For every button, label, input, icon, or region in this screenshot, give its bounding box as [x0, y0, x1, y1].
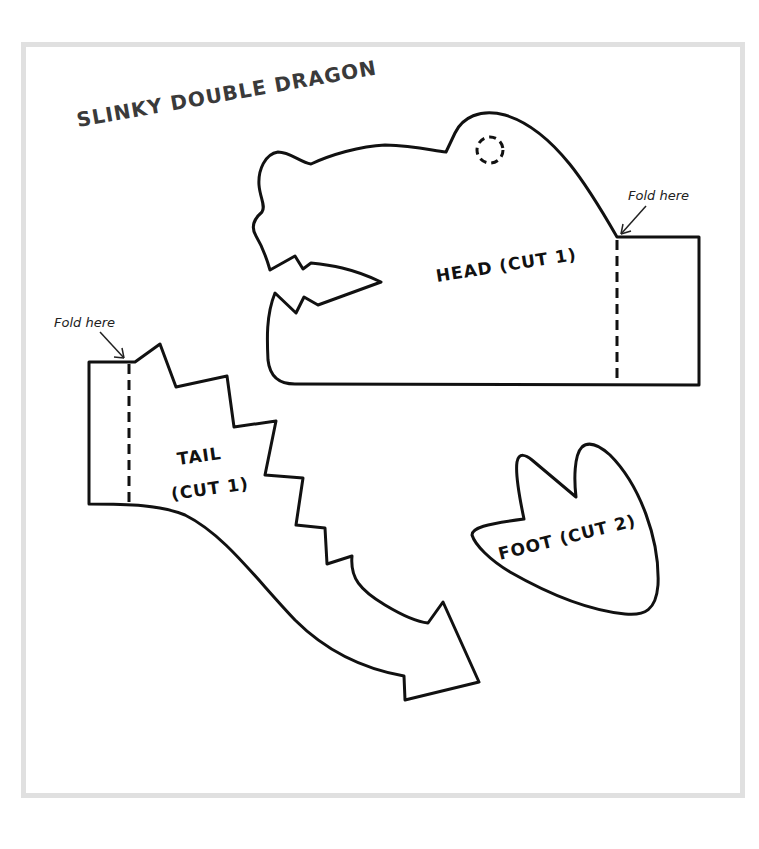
head-piece: HEAD (CUT 1) Fold here — [253, 113, 699, 385]
foot-piece: FOOT (CUT 2) — [472, 444, 658, 614]
eye-hole-icon — [477, 137, 503, 163]
tail-label-line1: TAIL — [176, 443, 223, 469]
tail-piece: TAIL (CUT 1) Fold here — [54, 315, 479, 700]
tail-outline — [89, 344, 479, 700]
tail-fold-label: Fold here — [54, 315, 115, 330]
head-fold-arrow-icon — [621, 206, 646, 234]
head-fold-label: Fold here — [628, 188, 689, 203]
page-title: SLINKY DOUBLE DRAGON — [75, 55, 379, 131]
head-label: HEAD (CUT 1) — [434, 244, 578, 286]
tail-fold-arrow-icon — [100, 332, 124, 358]
foot-label: FOOT (CUT 2) — [496, 510, 638, 564]
dragon-template-artwork: SLINKY DOUBLE DRAGON HEAD (CUT 1) Fold h… — [0, 0, 759, 849]
tail-label-line2: (CUT 1) — [170, 473, 250, 504]
